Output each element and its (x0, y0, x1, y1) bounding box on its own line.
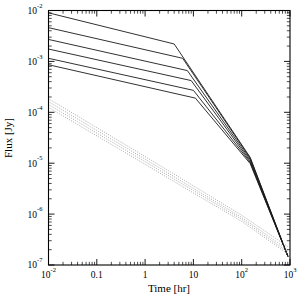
x-tick-label: 10 (189, 270, 199, 280)
y-tick-label: 10-2 (28, 1, 43, 16)
y-tick-label: 10-5 (28, 154, 43, 169)
y-axis-label: Flux [Jy] (2, 118, 14, 158)
x-tick-label: 10-2 (41, 265, 56, 280)
x-tick-label: 0.1 (91, 270, 103, 280)
x-tick-label: 102 (235, 265, 248, 280)
axes-frame (49, 11, 291, 266)
series-dotted-3 (49, 105, 288, 252)
x-axis-label: Time [hr] (148, 282, 190, 294)
curves-layer (49, 13, 288, 256)
series-dotted-1 (49, 99, 288, 247)
plot-frame (49, 11, 291, 266)
y-tick-label: 10-6 (28, 205, 44, 220)
figure-container: 10-20.111010210310-210-310-410-510-610-7… (0, 0, 306, 297)
series-dotted-2 (49, 102, 288, 250)
y-tick-label: 10-3 (28, 52, 43, 67)
x-tick-label: 103 (284, 265, 297, 280)
series-dotted-4 (49, 107, 288, 254)
series-solid-5 (49, 58, 288, 256)
y-tick-label: 10-4 (28, 103, 44, 118)
series-solid-1 (49, 13, 288, 256)
y-tick-label: 10-7 (28, 256, 44, 271)
flux-vs-time-chart: 10-20.111010210310-210-310-410-510-610-7… (0, 0, 306, 297)
series-solid-3 (49, 39, 288, 256)
tick-labels: 10-20.111010210310-210-310-410-510-610-7 (28, 1, 297, 280)
series-solid-6 (49, 65, 288, 256)
x-tick-label: 1 (143, 270, 148, 280)
